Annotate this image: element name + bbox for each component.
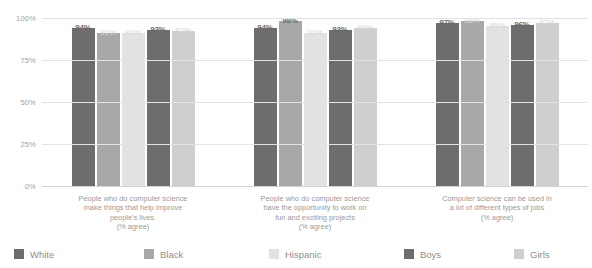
- legend-item-label: White: [30, 249, 54, 260]
- bar-group: 97%98%95%96%97%: [422, 0, 572, 192]
- x-axis-category-label-line: people's lives.: [50, 213, 216, 222]
- gridline: [42, 102, 588, 103]
- x-axis-category-label-line: People who do computer science: [50, 194, 216, 203]
- bar-slot: 94%: [72, 0, 95, 192]
- bar: [536, 23, 559, 186]
- y-axis-tick-label: 25%: [20, 140, 36, 149]
- x-axis-category-label-line: a lot of different types of jobs: [414, 203, 580, 212]
- x-axis-baseline: [42, 186, 588, 187]
- bar: [254, 28, 277, 186]
- gridline: [42, 144, 588, 145]
- legend-item-white[interactable]: White: [14, 249, 54, 260]
- bar-value-label: 95%: [489, 21, 505, 30]
- x-axis-category-label-line: Computer science can be used in: [414, 194, 580, 203]
- bar-value-label: 96%: [514, 20, 530, 29]
- bar-value-label: 91%: [125, 28, 141, 37]
- x-axis-category-label-line: make things that help improve: [50, 203, 216, 212]
- legend-item-hispanic[interactable]: Hispanic: [269, 249, 321, 260]
- gridline: [42, 18, 588, 19]
- legend-item-label: Girls: [530, 249, 550, 260]
- legend-item-boys[interactable]: Boys: [404, 249, 441, 260]
- bar: [304, 33, 327, 186]
- bar: [172, 31, 195, 186]
- plot-area: 0%25%50%75%100% 94%91%91%93%92%94%98%91%…: [0, 0, 592, 192]
- x-axis-category-label: People who do computer sciencehave the o…: [230, 194, 400, 240]
- y-axis-tick-label: 100%: [16, 14, 36, 23]
- bar-value-label: 93%: [150, 25, 166, 34]
- bar-slot: 94%: [254, 0, 277, 192]
- gridline: [42, 60, 588, 61]
- bar-slot: 91%: [97, 0, 120, 192]
- legend-swatch-icon: [14, 249, 24, 259]
- bar: [354, 28, 377, 186]
- bar-group: 94%91%91%93%92%: [58, 0, 208, 192]
- bar-value-label: 94%: [257, 23, 273, 32]
- bar-value-label: 93%: [332, 25, 348, 34]
- bar: [147, 30, 170, 186]
- bar-group: 94%98%91%93%94%: [240, 0, 390, 192]
- bar-value-label: 97%: [439, 18, 455, 27]
- bar-value-label: 91%: [100, 28, 116, 37]
- bar-value-label: 92%: [175, 26, 191, 35]
- chart-legend: WhiteBlackHispanicBoysGirls: [14, 244, 584, 264]
- bar-slot: 91%: [304, 0, 327, 192]
- x-axis-category-label-line: (% agree): [232, 222, 398, 231]
- x-axis-category-label-line: People who do computer science: [232, 194, 398, 203]
- x-axis-category-label-line: (% agree): [50, 222, 216, 231]
- x-axis-category-label-line: fun and exciting projects: [232, 213, 398, 222]
- legend-item-label: Hispanic: [285, 249, 321, 260]
- bar-value-label: 94%: [357, 23, 373, 32]
- grouped-bar-chart: 0%25%50%75%100% 94%91%91%93%92%94%98%91%…: [0, 0, 592, 268]
- bar: [329, 30, 352, 186]
- x-axis-category-label: Computer science can be used ina lot of …: [412, 194, 582, 240]
- bar-slot: 92%: [172, 0, 195, 192]
- bar: [279, 21, 302, 186]
- x-axis-category-label-line: have the opportunity to work on: [232, 203, 398, 212]
- bar-slot: 93%: [147, 0, 170, 192]
- bar: [436, 23, 459, 186]
- y-axis-tick-label: 50%: [20, 98, 36, 107]
- bar-slot: 97%: [436, 0, 459, 192]
- legend-item-girls[interactable]: Girls: [514, 249, 550, 260]
- legend-swatch-icon: [514, 249, 524, 259]
- legend-item-label: Boys: [420, 249, 441, 260]
- bar-groups: 94%91%91%93%92%94%98%91%93%94%97%98%95%9…: [42, 0, 588, 192]
- bar-slot: 98%: [461, 0, 484, 192]
- x-axis-category-labels: People who do computer sciencemake thing…: [42, 194, 588, 240]
- bar-slot: 97%: [536, 0, 559, 192]
- bar: [486, 26, 509, 186]
- legend-item-black[interactable]: Black: [144, 249, 183, 260]
- x-axis-category-label: People who do computer sciencemake thing…: [48, 194, 218, 240]
- y-axis-tick-label: 0%: [25, 182, 36, 191]
- x-axis-category-label-line: (% agree): [414, 213, 580, 222]
- bar-value-label: 94%: [75, 23, 91, 32]
- bar: [122, 33, 145, 186]
- bar: [461, 21, 484, 186]
- bar: [511, 25, 534, 186]
- bar-slot: 91%: [122, 0, 145, 192]
- legend-swatch-icon: [404, 249, 414, 259]
- bar-slot: 94%: [354, 0, 377, 192]
- legend-swatch-icon: [144, 249, 154, 259]
- bar-slot: 93%: [329, 0, 352, 192]
- bar-value-label: 97%: [539, 18, 555, 27]
- bar-value-label: 91%: [307, 28, 323, 37]
- legend-swatch-icon: [269, 249, 279, 259]
- legend-item-label: Black: [160, 249, 183, 260]
- bar-slot: 98%: [279, 0, 302, 192]
- y-axis: 0%25%50%75%100%: [0, 0, 42, 192]
- bar-slot: 96%: [511, 0, 534, 192]
- bar: [72, 28, 95, 186]
- y-axis-tick-label: 75%: [20, 56, 36, 65]
- bar: [97, 33, 120, 186]
- bar-slot: 95%: [486, 0, 509, 192]
